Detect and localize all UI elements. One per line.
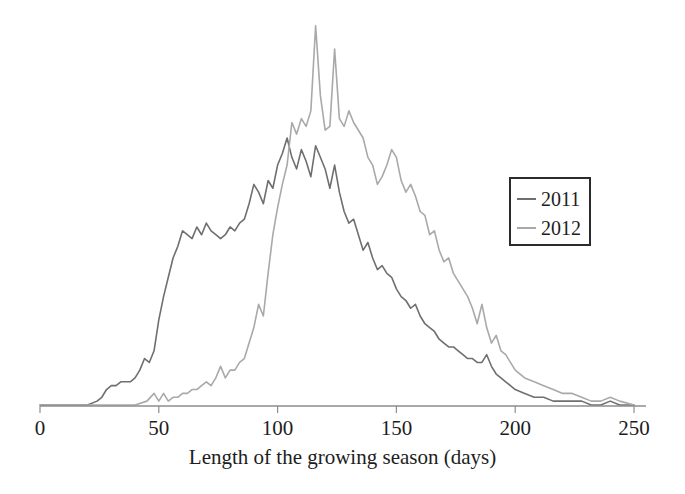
- chart-legend: 2011 2012: [509, 177, 591, 246]
- x-tick-label-0: 0: [35, 418, 46, 439]
- x-tick-label-50: 50: [148, 418, 169, 439]
- chart-figure: 050100150200250 Length of the growing se…: [0, 0, 685, 494]
- x-tick-label-150: 150: [381, 418, 413, 439]
- x-axis-title: Length of the growing season (days): [0, 445, 685, 470]
- legend-swatch-2011: [517, 198, 536, 200]
- legend-item-2012: 2012: [517, 213, 585, 242]
- chart-plot-area: [0, 0, 685, 494]
- x-tick-label-200: 200: [499, 418, 531, 439]
- legend-item-2011: 2011: [517, 184, 585, 213]
- x-axis-line-and-ticks: [40, 406, 646, 413]
- legend-label-2012: 2012: [541, 218, 581, 238]
- x-tick-label-100: 100: [262, 418, 294, 439]
- x-tick-label-250: 250: [618, 418, 650, 439]
- legend-label-2011: 2011: [541, 189, 580, 209]
- legend-swatch-2012: [517, 227, 536, 229]
